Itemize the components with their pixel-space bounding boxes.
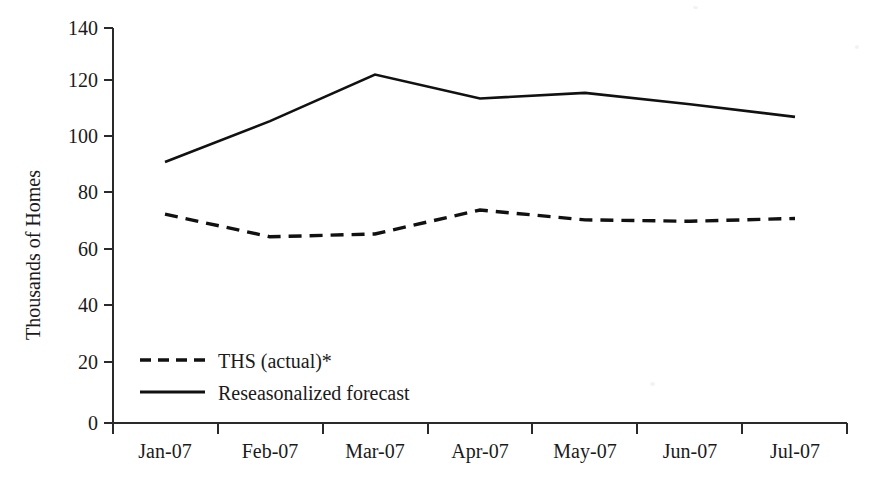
x-tick-label: Jan-07 bbox=[138, 440, 191, 462]
chart-legend: THS (actual)* Reseasonalized forecast bbox=[140, 350, 410, 404]
x-tick-label: Jul-07 bbox=[770, 440, 820, 462]
x-tick-label: Jun-07 bbox=[663, 440, 717, 462]
x-tick-label: Mar-07 bbox=[345, 440, 405, 462]
x-tick-label: Feb-07 bbox=[242, 440, 299, 462]
scan-artifact-speck bbox=[650, 382, 655, 386]
y-axis-tick-labels: 140 120 100 80 60 40 20 0 bbox=[68, 17, 98, 434]
y-tick-label: 40 bbox=[78, 294, 98, 316]
y-tick-label: 20 bbox=[78, 351, 98, 373]
scan-artifact-speck bbox=[693, 6, 698, 9]
x-tick-label: May-07 bbox=[553, 440, 616, 463]
y-axis bbox=[104, 28, 113, 423]
legend-label-reseasonalized-forecast: Reseasonalized forecast bbox=[218, 382, 410, 404]
series-line-reseasonalized-forecast bbox=[165, 75, 795, 162]
y-tick-label: 0 bbox=[88, 412, 98, 434]
series-line-ths-actual bbox=[165, 210, 795, 237]
y-tick-label: 140 bbox=[68, 17, 98, 39]
y-tick-label: 80 bbox=[78, 181, 98, 203]
line-chart-canvas: Thousands of Homes 140 120 100 80 60 40 … bbox=[0, 0, 887, 485]
x-axis-tick-labels: Jan-07 Feb-07 Mar-07 Apr-07 May-07 Jun-0… bbox=[138, 440, 820, 463]
y-tick-label: 100 bbox=[68, 125, 98, 147]
y-axis-title: Thousands of Homes bbox=[22, 170, 44, 340]
scan-artifact-speck bbox=[855, 45, 859, 49]
legend-label-ths-actual: THS (actual)* bbox=[218, 350, 332, 373]
y-tick-label: 120 bbox=[68, 69, 98, 91]
x-tick-label: Apr-07 bbox=[451, 440, 508, 463]
plot-series-group bbox=[165, 75, 795, 237]
x-axis bbox=[113, 423, 847, 434]
y-tick-label: 60 bbox=[78, 238, 98, 260]
chart-figure: Thousands of Homes 140 120 100 80 60 40 … bbox=[0, 0, 887, 485]
